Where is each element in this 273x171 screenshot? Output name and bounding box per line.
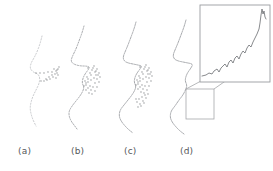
panel-d-svg bbox=[165, 0, 273, 140]
panel-b bbox=[53, 0, 115, 140]
panel-d bbox=[165, 0, 273, 140]
panel-c bbox=[110, 0, 168, 140]
magnified-inset-box bbox=[200, 5, 270, 82]
panel-b-svg bbox=[53, 0, 115, 140]
profile-contour-b bbox=[69, 26, 89, 129]
caption-b: (b) bbox=[71, 146, 84, 157]
panel-c-svg bbox=[110, 0, 168, 140]
caption-a: (a) bbox=[18, 146, 31, 157]
caption-d: (d) bbox=[180, 146, 193, 157]
profile-contour-c bbox=[119, 22, 141, 133]
region-of-interest-box bbox=[186, 89, 214, 119]
profile-contour-a bbox=[30, 36, 42, 126]
caption-c: (c) bbox=[124, 146, 137, 157]
sample-point-cloud-b bbox=[83, 65, 100, 94]
figure-container: (a) (b) (c) (d) bbox=[0, 0, 273, 171]
profile-contour-d bbox=[170, 20, 192, 134]
sample-point-cloud-c bbox=[135, 64, 152, 107]
